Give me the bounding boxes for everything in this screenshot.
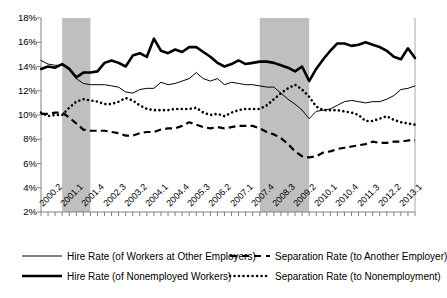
y-axis-tick-label: 18% bbox=[3, 13, 37, 23]
y-axis-tick-label: 8% bbox=[3, 134, 37, 144]
legend-label: Hire Rate (of Nonemployed Workers) bbox=[67, 271, 231, 282]
legend-item[interactable]: Hire Rate (of Nonemployed Workers) bbox=[20, 268, 231, 284]
y-axis-tick-label: 16% bbox=[3, 37, 37, 47]
y-axis-tick-label: 6% bbox=[3, 159, 37, 169]
legend-key-solid-thin bbox=[20, 249, 64, 263]
y-axis-tick-label: 12% bbox=[3, 86, 37, 96]
series-line bbox=[41, 113, 415, 158]
legend-item[interactable]: Separation Rate (to Another Employer) bbox=[228, 248, 447, 264]
legend-item[interactable]: Hire Rate (of Workers at Other Employers… bbox=[20, 248, 256, 264]
chart-legend: Hire Rate (of Workers at Other Employers… bbox=[0, 248, 435, 298]
legend-key-dotted bbox=[228, 269, 272, 283]
legend-label: Separation Rate (to Another Employer) bbox=[275, 251, 447, 262]
series-line bbox=[41, 39, 415, 81]
y-axis-tick-label: 10% bbox=[3, 110, 37, 120]
legend-item[interactable]: Separation Rate (to Nonemployment) bbox=[228, 268, 441, 284]
legend-key-solid-thick bbox=[20, 269, 64, 283]
series-line bbox=[41, 85, 415, 125]
legend-label: Separation Rate (to Nonemployment) bbox=[275, 271, 441, 282]
legend-swatch bbox=[20, 249, 64, 263]
legend-key-dashed bbox=[228, 249, 272, 263]
y-axis-tick-label: 4% bbox=[3, 183, 37, 193]
y-axis-tick-label: 14% bbox=[3, 62, 37, 72]
legend-swatch bbox=[20, 269, 64, 283]
legend-swatch bbox=[228, 249, 272, 263]
x-axis-tick-labels: 2000.22001.12001.42002.32003.22004.12004… bbox=[0, 196, 435, 248]
legend-swatch bbox=[228, 269, 272, 283]
series-line bbox=[41, 60, 415, 118]
